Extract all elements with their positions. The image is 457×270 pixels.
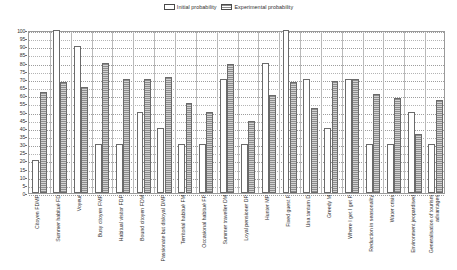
bar-experimental	[165, 77, 172, 193]
x-axis-tick-label: Fixed guest F	[286, 195, 292, 227]
bar-experimental	[352, 79, 359, 193]
bar-initial	[178, 144, 185, 193]
bar-experimental	[60, 82, 67, 193]
y-axis-tick-label: 100	[17, 29, 25, 34]
y-axis-tick-mark	[25, 178, 27, 179]
bar-initial	[345, 79, 352, 193]
x-axis-tick-label: Citoyen FDMP	[36, 195, 42, 229]
bar-initial	[157, 128, 164, 193]
x-axis-tick-label: Reduction in seasonality	[369, 195, 375, 252]
y-axis: 0510152025303540455055606570758085909510…	[0, 31, 27, 194]
bar-initial	[408, 112, 415, 194]
y-axis-tick-mark	[25, 104, 27, 105]
y-axis-tick-mark	[25, 153, 27, 154]
y-axis-tick-mark	[25, 88, 27, 89]
x-axis-tick-label: Voyeur	[77, 195, 83, 211]
y-axis-tick-mark	[25, 170, 27, 171]
bar-experimental	[332, 81, 339, 193]
bar-initial	[324, 128, 331, 193]
x-axis-tick-label: Hunter MP	[265, 195, 271, 220]
bar-experimental	[227, 64, 234, 193]
y-axis-tick-mark	[25, 64, 27, 65]
x-axis-tick-label: Bound citoyen FDM	[140, 195, 146, 241]
x-axis-label-slot: Generalisation of tourism advantages	[424, 195, 445, 270]
y-axis-tick-mark	[25, 72, 27, 73]
x-axis-tick-label: Occasional habitué FP	[202, 195, 208, 248]
y-axis-tick-mark	[25, 80, 27, 81]
bar-initial	[428, 144, 435, 193]
x-axis-label-slot: Citoyen FDMP	[28, 195, 49, 270]
y-axis-tick-mark	[25, 145, 27, 146]
bar-experimental	[123, 79, 130, 193]
bar-experimental	[81, 87, 88, 193]
x-axis-label-slot: Reduction in seasonality	[362, 195, 383, 270]
bar-initial	[32, 160, 39, 193]
plot-area	[28, 31, 445, 194]
legend-swatch-icon	[164, 4, 175, 10]
x-axis-label-slot: Summer traveller DM	[216, 195, 237, 270]
x-axis-tick-label: Generalisation of tourism advantages	[429, 195, 440, 267]
legend-entry-experimental: Experimental probability	[221, 4, 293, 10]
legend-label-initial: Initial probability	[177, 4, 217, 10]
bar-experimental	[248, 121, 255, 193]
bar-initial	[262, 63, 269, 193]
chart-legend: Initial probability Experimental probabi…	[0, 4, 457, 10]
x-axis-label-slot: Una tantum D	[299, 195, 320, 270]
bar-initial	[220, 79, 227, 193]
x-axis-tick-label: Water crisis	[390, 195, 396, 222]
x-axis-tick-label: Loyal pensioner DP	[244, 195, 250, 241]
bar-experimental	[102, 63, 109, 193]
y-axis-tick-mark	[25, 47, 27, 48]
x-axis-label-slot: Greedy M	[320, 195, 341, 270]
x-axis-label-slot: Hunter MP	[257, 195, 278, 270]
x-axis-label-slot: Habitual visitor FDP	[111, 195, 132, 270]
y-axis-tick-mark	[25, 113, 27, 114]
bar-initial	[366, 144, 373, 193]
bar-experimental	[206, 112, 213, 194]
x-axis-tick-label: Busy citoyen FMP	[98, 195, 104, 237]
x-axis-label-slot: Passionate but disloyal DMP	[153, 195, 174, 270]
y-axis-tick-mark	[25, 194, 27, 195]
bar-initial	[116, 144, 123, 193]
x-axis-tick-label: Passionate but disloyal DMP	[161, 195, 167, 262]
x-axis-label-slot: Summer habitué FD	[49, 195, 70, 270]
y-axis-tick-mark	[25, 31, 27, 32]
bar-initial	[199, 144, 206, 193]
x-axis-tick-label: Greedy M	[328, 195, 334, 218]
legend-swatch-icon	[221, 4, 232, 10]
x-axis-tick-label: Environment jeopardised	[411, 195, 417, 253]
bar-experimental	[269, 95, 276, 193]
legend-label-experimental: Experimental probability	[234, 4, 293, 10]
bar-initial	[283, 30, 290, 193]
bar-initial	[74, 46, 81, 193]
bar-initial	[53, 30, 60, 193]
y-axis-tick-mark	[25, 121, 27, 122]
bar-experimental	[144, 79, 151, 193]
bar-initial	[303, 79, 310, 193]
x-axis-tick-label: Territorial habitué FM	[182, 195, 188, 244]
y-axis-tick-mark	[25, 39, 27, 40]
x-axis-tick-label: Una tantum D	[307, 195, 313, 227]
bar-initial	[241, 144, 248, 193]
y-axis-tick-mark	[25, 161, 27, 162]
bar-experimental	[40, 92, 47, 193]
x-axis-tick-label: Where I get I get P	[348, 195, 354, 239]
bar-initial	[137, 112, 144, 194]
bar-experimental	[290, 82, 297, 193]
x-axis-label-slot: Territorial habitué FM	[174, 195, 195, 270]
x-axis-tick-label: Summer habitué FD	[56, 195, 62, 242]
y-axis-tick-mark	[25, 137, 27, 138]
x-axis-label-slot: Environment jeopardised	[403, 195, 424, 270]
x-axis-tick-label: Summer traveller DM	[223, 195, 229, 244]
bar-experimental	[436, 100, 443, 193]
y-axis-tick-mark	[25, 55, 27, 56]
x-axis-label-slot: Loyal pensioner DP	[237, 195, 258, 270]
x-axis-label-slot: Voyeur	[70, 195, 91, 270]
bar-initial	[387, 144, 394, 193]
bar-experimental	[373, 94, 380, 193]
x-axis-label-slot: Where I get I get P	[341, 195, 362, 270]
bar-experimental	[394, 98, 401, 193]
x-axis-tick-label: Habitual visitor FDP	[119, 195, 125, 241]
y-axis-tick-mark	[25, 96, 27, 97]
bar-experimental	[311, 108, 318, 193]
